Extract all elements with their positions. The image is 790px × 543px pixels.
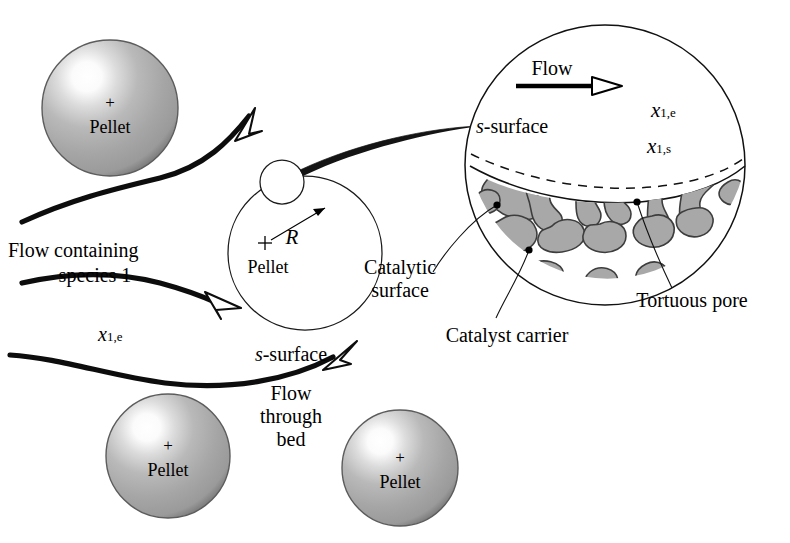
x1s-detail-base: x (647, 134, 656, 158)
species-1-label: species 1 (59, 265, 132, 287)
pellet-center-mark-bottom-left: + (163, 437, 173, 455)
detail-circle-boundary (465, 25, 745, 305)
x1e-left-label: x1,e (78, 302, 122, 367)
radius-label: R (286, 226, 299, 249)
pellet-center-mark-bottom-right: + (395, 449, 405, 467)
pellet-outline-label: Pellet (248, 258, 289, 277)
pellet-label-top-left: Pellet (90, 118, 131, 137)
callout-tortuous-pore: Tortuous pore (636, 290, 747, 312)
detail-flow-label: Flow (531, 58, 572, 80)
flow-arrowhead-lower (323, 341, 357, 370)
x1e-left-base: x (98, 323, 107, 345)
flow-arrowhead-middle (205, 292, 241, 319)
center-cross-mark (258, 236, 272, 250)
callout-catalytic-surface-line2: surface (371, 280, 429, 302)
figure-canvas: Pellet + Pellet + Pellet + Pellet R Flow… (0, 0, 790, 543)
flow-through-line3: bed (277, 429, 306, 451)
pellet-label-bottom-right: Pellet (380, 473, 421, 492)
pellet-center-mark-top-left: + (105, 94, 115, 112)
x1s-detail-label: x1,s (626, 112, 671, 180)
detail-circle-group (433, 25, 746, 318)
flow-through-line1: Flow (270, 383, 311, 405)
pellet-outline-circle (228, 160, 382, 330)
pellet-sphere-bottom-left (106, 394, 230, 518)
flow-containing-label: Flow containing (8, 240, 139, 262)
s-surface-detail-label: s-surface (476, 116, 548, 138)
magnifier-connector (300, 126, 479, 176)
magnifier-source-circle (260, 160, 304, 204)
pellet-label-bottom-left: Pellet (148, 461, 189, 480)
callout-catalytic-surface-line1: Catalytic (364, 257, 436, 279)
flow-through-line2: through (260, 406, 322, 428)
callout-catalyst-carrier: Catalyst carrier (446, 325, 569, 347)
pellet-sphere-bottom-right (342, 410, 458, 526)
s-surface-left-label: s-surface (255, 344, 327, 366)
x1e-left-subscript: 1,e (107, 329, 123, 344)
x1s-detail-subscript: 1,s (656, 141, 671, 156)
